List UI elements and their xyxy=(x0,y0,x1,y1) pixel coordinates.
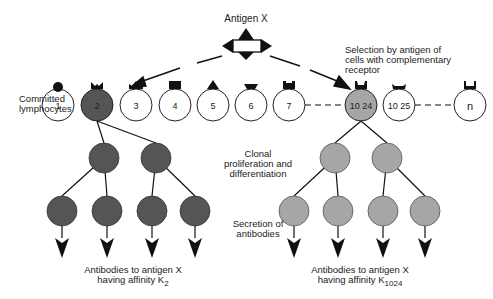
lymphocyte-3: 3 xyxy=(120,81,152,121)
clone-tree-right xyxy=(294,121,425,238)
right-result-line2: having affinity K1024 xyxy=(295,275,425,289)
svg-text:4: 4 xyxy=(172,101,177,111)
right-result-label: Antibodies to antigen X having affinity … xyxy=(295,265,425,289)
lymphocyte-2-selected: 2 xyxy=(81,82,113,121)
svg-text:10 25: 10 25 xyxy=(388,101,411,111)
receptor-square-icon xyxy=(169,81,181,89)
plasma-cell xyxy=(368,196,398,226)
receptor-trapezoid-concave-icon xyxy=(392,84,406,89)
receptor-v-notch-icon xyxy=(91,82,103,89)
clone-cells-left xyxy=(47,143,210,226)
lymphocyte-5: 5 xyxy=(197,80,229,121)
committed-lymphocytes-label: Committed lymphocytes xyxy=(19,94,72,114)
committed-line2: lymphocytes xyxy=(19,104,72,114)
receptor-u-notch-open-icon xyxy=(464,81,476,89)
svg-text:n: n xyxy=(467,100,473,112)
svg-text:7: 7 xyxy=(286,101,291,111)
plasma-cell xyxy=(92,196,122,226)
left-result-label: Antibodies to antigen X having affinity … xyxy=(68,265,198,289)
lymphocyte-row: 1 2 3 4 5 6 xyxy=(42,80,486,121)
lymphocyte-4: 4 xyxy=(159,81,191,121)
clonal-line3: differentiation xyxy=(208,169,308,179)
clone-tree-left xyxy=(62,121,195,238)
svg-text:5: 5 xyxy=(210,101,215,111)
receptor-notched-square-icon xyxy=(283,81,295,89)
clonal-proliferation-label: Clonal proliferation and differentiation xyxy=(208,149,308,179)
secretion-line2: antibodies xyxy=(213,229,303,239)
right-result-subscript: 1024 xyxy=(385,279,403,288)
clone-cell xyxy=(141,143,171,173)
plasma-cell xyxy=(47,196,77,226)
antigen-label: Antigen X xyxy=(206,14,286,24)
left-result-line2: having affinity K2 xyxy=(68,275,198,289)
svg-text:10 24: 10 24 xyxy=(350,101,373,111)
antigen-label-text: Antigen X xyxy=(224,13,267,24)
left-result-text: having affinity K xyxy=(97,274,164,285)
selection-arrow-right xyxy=(270,56,350,89)
receptor-trapezoid-icon xyxy=(244,84,258,89)
selection-label: Selection by antigen of cells with compl… xyxy=(345,45,451,75)
receptor-triangle-icon xyxy=(207,80,219,89)
clone-cell xyxy=(320,143,350,173)
svg-text:3: 3 xyxy=(133,101,138,111)
lymphocyte-1025: 10 25 xyxy=(383,84,415,121)
plasma-cell xyxy=(410,196,440,226)
left-result-subscript: 2 xyxy=(164,279,168,288)
secretion-label: Secretion of antibodies xyxy=(213,219,303,239)
lymphocyte-1024-selected: 10 24 xyxy=(345,81,377,121)
lymphocyte-6: 6 xyxy=(235,84,267,121)
selection-line3: receptor xyxy=(345,65,451,75)
receptor-u-notch-icon xyxy=(355,81,367,89)
antibody-icons-left xyxy=(55,238,202,258)
plasma-cell xyxy=(137,196,167,226)
clone-cell xyxy=(89,143,119,173)
antibody-icons-right xyxy=(287,238,432,258)
svg-text:6: 6 xyxy=(248,101,253,111)
antigen-icon xyxy=(222,28,272,60)
lymphocyte-7: 7 xyxy=(273,81,305,121)
plasma-cell xyxy=(180,196,210,226)
svg-text:2: 2 xyxy=(94,101,99,111)
clone-cell xyxy=(372,143,402,173)
lymphocyte-n: n xyxy=(454,81,486,121)
plasma-cell xyxy=(323,196,353,226)
right-result-text: having affinity K xyxy=(318,274,385,285)
